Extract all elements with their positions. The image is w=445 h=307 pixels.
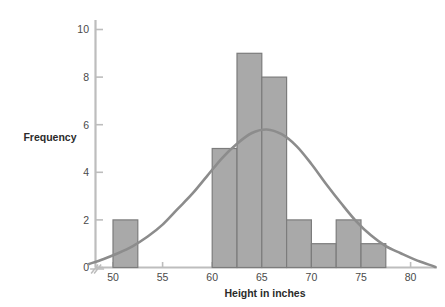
histogram-bar	[237, 53, 262, 267]
x-tick-label-75: 75	[355, 271, 367, 283]
x-tick-label-70: 70	[306, 271, 318, 283]
x-tick-label-55: 55	[157, 271, 169, 283]
y-axis-title: Frequency	[23, 131, 76, 143]
x-axis-title: Height in inches	[224, 287, 305, 299]
histogram-bar	[262, 77, 287, 267]
y-tick-label-10: 10	[77, 23, 89, 35]
y-tick-label-2: 2	[83, 214, 89, 226]
x-tick-label-65: 65	[256, 271, 268, 283]
histogram-bar	[113, 220, 138, 268]
histogram-bar	[336, 220, 361, 268]
histogram-bar	[361, 244, 386, 268]
y-tick-label-6: 6	[83, 119, 89, 131]
histogram-bar	[287, 220, 312, 268]
x-tick-label-50: 50	[107, 271, 119, 283]
x-tick-label-80: 80	[405, 271, 417, 283]
histogram-bar	[311, 244, 336, 268]
histogram-chart: 0246810 50556065707580 Frequency Height …	[0, 0, 445, 307]
x-tick-label-60: 60	[206, 271, 218, 283]
y-tick-label-8: 8	[83, 71, 89, 83]
y-tick-label-4: 4	[83, 166, 89, 178]
chart-canvas: 0246810 50556065707580 Frequency Height …	[0, 0, 445, 307]
